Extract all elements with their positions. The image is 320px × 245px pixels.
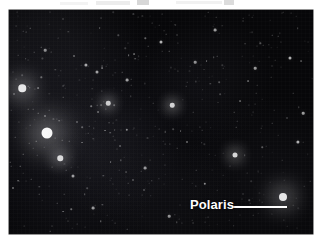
- star: [165, 164, 166, 165]
- star: [113, 123, 114, 124]
- star: [242, 20, 244, 22]
- star: [282, 171, 283, 172]
- star: [112, 183, 113, 184]
- star-field-photograph: Polaris: [9, 10, 313, 234]
- star: [170, 67, 171, 68]
- star: [202, 89, 204, 91]
- star: [165, 144, 166, 145]
- star: [190, 66, 191, 67]
- star: [102, 204, 103, 205]
- star: [260, 132, 261, 133]
- star: [205, 217, 206, 218]
- star: [64, 164, 65, 165]
- star: [86, 133, 87, 134]
- star: [240, 215, 241, 216]
- star: [213, 56, 215, 58]
- star: [259, 41, 260, 42]
- star: [76, 94, 77, 95]
- star: [229, 219, 230, 220]
- star: [204, 221, 205, 222]
- star: [58, 38, 59, 39]
- star: [44, 115, 46, 117]
- star: [126, 129, 128, 131]
- star: [23, 173, 24, 174]
- star: [17, 11, 18, 12]
- star: [271, 77, 272, 78]
- star: [164, 173, 165, 174]
- star: [203, 144, 204, 145]
- star: [271, 123, 272, 124]
- star: [133, 13, 134, 14]
- star: [18, 121, 19, 122]
- star: [219, 93, 221, 95]
- star: [297, 27, 299, 29]
- star: [25, 58, 27, 60]
- star: [26, 25, 27, 26]
- star: [155, 126, 156, 127]
- star: [300, 60, 302, 62]
- star: [280, 66, 281, 67]
- star: [62, 211, 64, 213]
- star: [303, 186, 304, 187]
- star: [206, 60, 208, 62]
- star: [205, 121, 206, 122]
- star: [124, 47, 125, 48]
- star: [261, 201, 262, 202]
- star: [11, 110, 12, 111]
- star: [187, 82, 188, 83]
- star: [283, 11, 284, 12]
- star: [192, 222, 194, 224]
- polaris-leader-line: [233, 206, 287, 208]
- star: [307, 153, 309, 155]
- star: [29, 87, 31, 89]
- star: [113, 87, 114, 88]
- star: [138, 59, 139, 60]
- star: [131, 85, 132, 86]
- star: [34, 119, 35, 120]
- star: [155, 27, 156, 28]
- star: [247, 173, 248, 174]
- star: [125, 171, 127, 173]
- star: [98, 111, 100, 113]
- star: [146, 56, 147, 57]
- star: [262, 98, 263, 99]
- star: [171, 21, 172, 22]
- star: [234, 111, 235, 112]
- star: [170, 103, 175, 108]
- star: [42, 128, 53, 139]
- star: [124, 156, 125, 157]
- star: [28, 86, 29, 87]
- star: [12, 187, 14, 189]
- star: [106, 108, 107, 109]
- star: [116, 119, 117, 120]
- star: [273, 110, 274, 111]
- star: [217, 224, 218, 225]
- star: [87, 176, 88, 177]
- star: [145, 83, 146, 84]
- star: [41, 77, 42, 78]
- star: [165, 132, 166, 133]
- star: [303, 142, 304, 143]
- star: [258, 172, 259, 173]
- star: [101, 90, 102, 91]
- star: [177, 42, 178, 43]
- star: [104, 130, 106, 132]
- star: [255, 206, 256, 207]
- star: [241, 56, 242, 57]
- star: [289, 57, 292, 60]
- star: [163, 183, 164, 184]
- star: [279, 33, 280, 34]
- star: [27, 109, 28, 110]
- star: [271, 47, 272, 48]
- star: [101, 66, 103, 68]
- star: [202, 129, 203, 130]
- star: [296, 227, 297, 228]
- star: [92, 98, 93, 99]
- star: [72, 157, 73, 158]
- scan-artifact: [60, 2, 88, 5]
- star: [164, 131, 165, 132]
- star: [309, 181, 310, 182]
- star: [129, 195, 130, 196]
- star: [169, 70, 170, 71]
- star: [266, 146, 267, 147]
